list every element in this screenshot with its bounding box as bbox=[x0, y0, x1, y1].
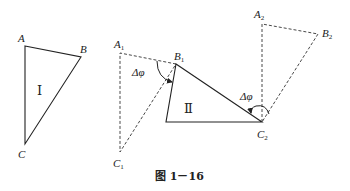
region-label-2: Ⅱ bbox=[184, 101, 193, 116]
triangle-1: A B C Ⅰ bbox=[17, 32, 87, 160]
rotation-arc-arrow-2 bbox=[251, 106, 269, 114]
dashed-triangle-2-outline bbox=[262, 24, 318, 122]
vertex-label-c: C bbox=[18, 148, 26, 160]
figure-caption: 图 1－16 bbox=[155, 170, 204, 183]
vertex-label-a1: A1 bbox=[113, 38, 125, 52]
vertex-label-b: B bbox=[80, 43, 87, 55]
dashed-triangle-1-outline bbox=[120, 53, 176, 152]
vertex-label-c2: C2 bbox=[257, 128, 268, 142]
angle-label-2: Δφ bbox=[239, 90, 253, 102]
triangle-1-outline bbox=[25, 46, 81, 144]
rigid-body-motion-diagram: A B C Ⅰ A1 B1 C1 Δφ Ⅱ A2 B2 C2 Δφ 图 1－16 bbox=[0, 0, 350, 191]
vertex-label-b2: B2 bbox=[322, 27, 333, 41]
vertex-label-a: A bbox=[17, 32, 25, 44]
dashed-triangle-1: A1 B1 C1 Δφ bbox=[113, 38, 185, 171]
region-label-1: Ⅰ bbox=[37, 83, 42, 98]
vertex-label-c1: C1 bbox=[113, 157, 124, 171]
vertex-label-b1: B1 bbox=[174, 50, 185, 64]
vertex-label-a2: A2 bbox=[253, 8, 265, 22]
angle-label-1: Δφ bbox=[131, 66, 145, 78]
rotation-arc-arrow-1 bbox=[157, 61, 172, 82]
